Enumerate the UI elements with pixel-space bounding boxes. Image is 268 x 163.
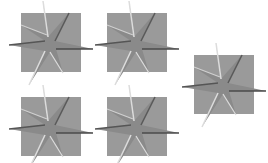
star-tile — [107, 97, 167, 156]
star-tile — [21, 13, 81, 72]
embossed-star-icon — [174, 35, 268, 134]
star-tile — [107, 13, 167, 72]
star-tile — [21, 97, 81, 156]
star-tile — [194, 55, 254, 114]
embossed-star-icon — [87, 77, 187, 163]
embossed-star-icon — [1, 77, 101, 163]
